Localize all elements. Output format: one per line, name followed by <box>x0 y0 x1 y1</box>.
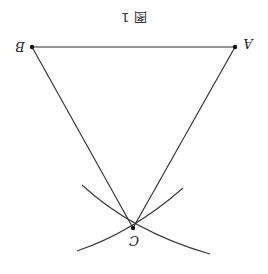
segment-ac <box>133 47 235 228</box>
label-a: A <box>243 36 253 51</box>
point-b <box>30 45 34 49</box>
arc-centered-b <box>82 185 210 254</box>
point-a <box>233 45 237 49</box>
figure-title: 图 1 <box>121 10 146 25</box>
label-c: C <box>129 233 139 248</box>
point-c <box>131 226 135 230</box>
triangle-construction-figure: 图 1 A B C <box>0 0 268 274</box>
segment-bc <box>32 47 133 228</box>
label-b: B <box>15 39 26 54</box>
